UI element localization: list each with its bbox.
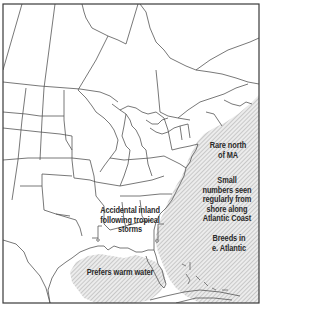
label-accidental-inland: Accidental inland following tropical sto…	[97, 206, 162, 235]
label-warm-water: Prefers warm water	[77, 268, 163, 278]
label-breeds: Breeds in e. Atlantic	[208, 234, 251, 253]
gulf-range-area	[70, 254, 166, 303]
label-small-numbers: Small numbers seen regularly from shore …	[200, 176, 253, 224]
label-rare-north: Rare north of MA	[206, 141, 251, 160]
